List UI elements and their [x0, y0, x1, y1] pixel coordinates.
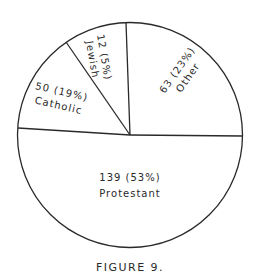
figure-caption: FIGURE 9.: [96, 261, 164, 274]
protestant-label: Protestant: [99, 188, 160, 199]
slice-label-catholic: 50 (19%) Catholic: [31, 80, 89, 116]
slice-label-protestant: 139 (53%) Protestant: [99, 172, 160, 199]
divider-protestant-catholic: [18, 128, 130, 135]
slice-label-other: 63 (23%) Other: [157, 45, 208, 103]
divider-jewish-other: [126, 23, 130, 136]
divider-other-protestant: [130, 135, 243, 136]
slice-label-jewish: 12 (5%) Jewish: [83, 34, 114, 84]
protestant-value: 139 (53%): [99, 172, 160, 183]
pie-chart: 63 (23%) Other 12 (5%) Jewish 50 (19%) C…: [0, 0, 257, 276]
